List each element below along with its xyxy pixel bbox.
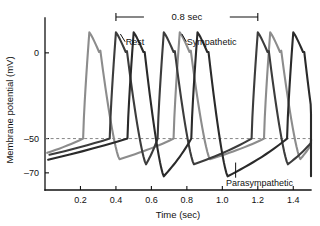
chart-canvas: Membrane potential (mV) 0–50–70 0.20.40.… [0, 0, 320, 226]
interval-bracket-label: 0.8 sec [172, 11, 203, 22]
label-parasympathetic: Parasympathetic [226, 178, 294, 188]
y-axis-title: Membrane potential (mV) [4, 56, 15, 163]
y-tick-label: 0 [34, 48, 39, 58]
x-tick-label: 0.2 [74, 195, 87, 205]
x-axis-ticks: 0.20.40.60.81.01.21.4 [74, 186, 299, 205]
y-tick-label: –70 [24, 168, 39, 178]
x-tick-label: 1.2 [252, 195, 265, 205]
label-sympathetic: Sympathetic [187, 37, 237, 47]
x-tick-label: 1.4 [287, 195, 300, 205]
x-axis-title: Time (sec) [156, 209, 201, 220]
x-tick-label: 0.4 [110, 195, 123, 205]
label-rest: Rest [126, 37, 145, 47]
pacemaker-potential-chart: Membrane potential (mV) 0–50–70 0.20.40.… [0, 0, 320, 226]
x-tick-label: 0.6 [145, 195, 158, 205]
trace-sympathetic [47, 32, 311, 159]
x-tick-label: 0.8 [181, 195, 194, 205]
x-tick-label: 1.0 [216, 195, 229, 205]
y-tick-label: –50 [24, 134, 39, 144]
